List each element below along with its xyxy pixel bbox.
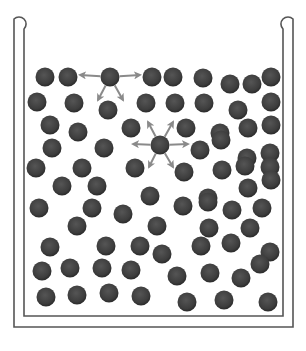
molecule	[194, 69, 213, 88]
molecule	[262, 171, 281, 190]
molecule	[177, 119, 196, 138]
molecule	[122, 261, 141, 280]
force-arrow-down-right	[165, 153, 173, 167]
molecule	[53, 177, 72, 196]
molecule	[141, 187, 160, 206]
force-arrow-right	[169, 144, 188, 145]
force-arrow-down-left	[98, 85, 106, 100]
molecule	[213, 161, 232, 180]
molecule	[28, 93, 47, 112]
molecule	[259, 293, 278, 312]
molecule	[143, 68, 162, 87]
force-arrow-left	[133, 144, 151, 145]
molecule	[43, 139, 62, 158]
molecule	[195, 94, 214, 113]
molecule	[83, 199, 102, 218]
molecule	[65, 94, 84, 113]
molecule	[131, 237, 150, 256]
molecule	[175, 163, 194, 182]
molecule	[201, 264, 220, 283]
molecule	[100, 284, 119, 303]
molecule	[178, 293, 197, 312]
force-arrow-down-right	[115, 85, 123, 100]
molecule	[95, 139, 114, 158]
molecule	[61, 259, 80, 278]
molecule	[101, 68, 120, 87]
diagram-canvas	[0, 0, 306, 351]
molecule	[73, 159, 92, 178]
molecule	[229, 101, 248, 120]
molecule	[212, 131, 231, 150]
molecule	[215, 291, 234, 310]
molecule	[68, 286, 87, 305]
molecule	[192, 237, 211, 256]
molecule	[153, 245, 172, 264]
molecule-group	[27, 68, 281, 312]
molecule	[241, 219, 260, 238]
molecule	[262, 116, 281, 135]
molecule	[200, 219, 219, 238]
molecule	[239, 179, 258, 198]
molecule	[97, 237, 116, 256]
molecule	[221, 75, 240, 94]
molecule	[251, 255, 270, 274]
force-arrow-right	[119, 75, 140, 76]
molecule	[166, 94, 185, 113]
molecule	[164, 68, 183, 87]
molecule	[27, 159, 46, 178]
molecule	[168, 267, 187, 286]
liquid-molecules-diagram	[0, 0, 306, 351]
molecule	[41, 116, 60, 135]
molecule	[223, 201, 242, 220]
molecule	[132, 287, 151, 306]
molecule	[191, 141, 210, 160]
molecule	[243, 75, 262, 94]
force-arrow-left	[80, 75, 101, 76]
molecule	[137, 94, 156, 113]
force-arrow-down-left	[149, 153, 156, 167]
molecule	[114, 205, 133, 224]
molecule	[37, 288, 56, 307]
molecule	[41, 238, 60, 257]
molecule	[69, 123, 88, 142]
molecule	[239, 119, 258, 138]
molecule	[151, 136, 170, 155]
molecule	[199, 193, 218, 212]
molecule	[222, 234, 241, 253]
molecule	[148, 217, 167, 236]
molecule	[59, 68, 78, 87]
molecule	[33, 262, 52, 281]
molecule	[253, 199, 272, 218]
molecule	[262, 93, 281, 112]
force-arrow-up-right	[165, 122, 173, 137]
molecule	[126, 159, 145, 178]
molecule	[93, 259, 112, 278]
molecule	[68, 217, 87, 236]
molecule	[236, 157, 255, 176]
molecule	[122, 119, 141, 138]
molecule	[232, 269, 251, 288]
molecule	[174, 197, 193, 216]
force-arrow-up-left	[148, 122, 156, 137]
molecule	[262, 68, 281, 87]
molecule	[30, 199, 49, 218]
molecule	[36, 68, 55, 87]
molecule	[99, 101, 118, 120]
molecule	[88, 177, 107, 196]
